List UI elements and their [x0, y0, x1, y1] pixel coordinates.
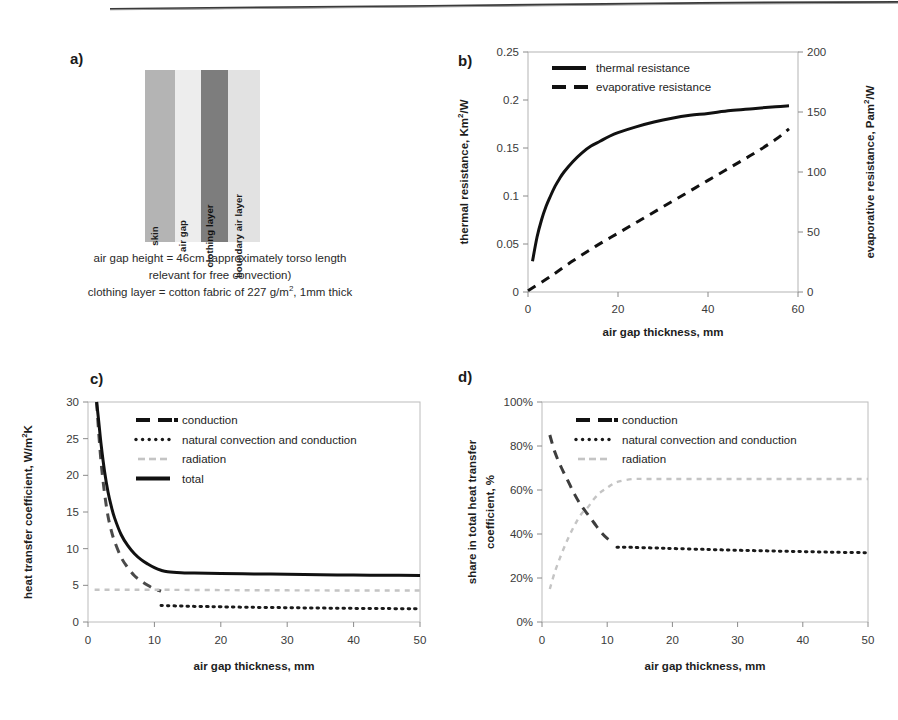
svg-text:0: 0	[513, 286, 519, 298]
svg-text:25: 25	[66, 433, 79, 445]
svg-text:air gap thickness, mm: air gap thickness, mm	[603, 326, 724, 338]
svg-text:total: total	[182, 473, 204, 485]
panel-b-chart: 020406000.050.10.150.20.25050100150200th…	[440, 20, 898, 360]
svg-text:0.05: 0.05	[497, 238, 519, 250]
caption-line-3-b: , 1mm thick	[293, 286, 352, 298]
layer-clothing: clothing layer	[201, 70, 227, 242]
svg-text:40: 40	[796, 634, 809, 646]
svg-text:evaporative resistance, Pam2/W: evaporative resistance, Pam2/W	[862, 85, 876, 258]
panel-c-chart: 01020304050051015202530heat transfer coe…	[10, 360, 450, 720]
panel-b-letter: b)	[458, 52, 472, 69]
layer-skin-label: skin	[149, 226, 160, 245]
svg-text:natural convection and conduct: natural convection and conduction	[182, 434, 357, 446]
svg-text:conduction: conduction	[622, 414, 678, 426]
svg-text:thermal resistance, Km2/W: thermal resistance, Km2/W	[456, 99, 470, 244]
panel-d: d) 010203040500%20%40%60%80%100%share in…	[450, 360, 898, 720]
svg-text:10: 10	[66, 543, 79, 555]
caption-line-2: relevant for free convection)	[18, 267, 422, 284]
svg-text:20%: 20%	[510, 572, 533, 584]
svg-text:10: 10	[601, 634, 614, 646]
svg-text:20: 20	[612, 303, 625, 315]
svg-text:40: 40	[347, 634, 360, 646]
svg-text:0: 0	[539, 634, 545, 646]
svg-text:50: 50	[414, 634, 427, 646]
svg-text:150: 150	[807, 106, 826, 118]
svg-text:air gap thickness, mm: air gap thickness, mm	[194, 660, 315, 672]
layer-air-gap: air gap	[175, 70, 201, 242]
svg-text:20: 20	[666, 634, 679, 646]
svg-text:30: 30	[281, 634, 294, 646]
svg-text:100%: 100%	[504, 396, 533, 408]
svg-text:100: 100	[807, 166, 826, 178]
svg-text:15: 15	[66, 506, 79, 518]
panel-a-letter: a)	[70, 50, 83, 67]
panel-c-letter: c)	[90, 370, 103, 387]
svg-text:heat transfer coefficient, W/m: heat transfer coefficient, W/m2K	[20, 424, 34, 599]
svg-text:air gap thickness, mm: air gap thickness, mm	[645, 660, 766, 672]
layer-boundary-air: boundary air layer	[228, 70, 260, 242]
svg-text:20: 20	[66, 469, 79, 481]
svg-text:200: 200	[807, 46, 826, 58]
svg-text:share in total heat transfer: share in total heat transfer	[466, 439, 478, 584]
svg-text:40%: 40%	[510, 528, 533, 540]
svg-text:0: 0	[525, 303, 531, 315]
svg-text:0.1: 0.1	[503, 190, 519, 202]
svg-text:radiation: radiation	[182, 453, 226, 465]
svg-text:80%: 80%	[510, 440, 533, 452]
svg-text:30: 30	[66, 396, 79, 408]
svg-text:20: 20	[214, 634, 227, 646]
layer-skin: skin	[145, 70, 175, 242]
svg-text:evaporative resistance: evaporative resistance	[596, 81, 711, 93]
layer-air-gap-label: air gap	[177, 220, 188, 252]
clothing-layer-diagram: skin air gap clothing layer boundary air…	[145, 70, 260, 242]
svg-text:60: 60	[792, 303, 805, 315]
svg-text:5: 5	[73, 579, 79, 591]
svg-text:0: 0	[807, 286, 813, 298]
caption-line-1: air gap height = 46cm (approximately tor…	[18, 250, 422, 267]
panel-d-chart: 010203040500%20%40%60%80%100%share in to…	[450, 360, 898, 720]
svg-text:coefficient, %: coefficient, %	[484, 475, 496, 549]
panel-a: a) skin air gap clothing layer boundary …	[0, 28, 440, 328]
svg-text:0.25: 0.25	[497, 46, 519, 58]
panel-a-caption: air gap height = 46cm (approximately tor…	[18, 250, 422, 301]
svg-text:60%: 60%	[510, 484, 533, 496]
svg-text:radiation: radiation	[622, 453, 666, 465]
svg-text:0: 0	[73, 616, 79, 628]
caption-line-3-a: clothing layer = cotton fabric of 227 g/…	[88, 286, 289, 298]
svg-text:thermal resistance: thermal resistance	[596, 62, 690, 74]
svg-text:50: 50	[807, 226, 820, 238]
svg-text:30: 30	[731, 634, 744, 646]
svg-text:0: 0	[85, 634, 91, 646]
panel-c: c) 01020304050051015202530heat transfer …	[10, 360, 450, 720]
svg-text:10: 10	[148, 634, 161, 646]
svg-text:0.15: 0.15	[497, 142, 519, 154]
svg-text:0%: 0%	[516, 616, 533, 628]
svg-text:50: 50	[862, 634, 875, 646]
svg-text:0.2: 0.2	[503, 94, 519, 106]
panel-b: b) 020406000.050.10.150.20.2505010015020…	[440, 20, 898, 360]
svg-text:40: 40	[702, 303, 715, 315]
scan-artifact-line	[0, 0, 898, 14]
svg-text:conduction: conduction	[182, 414, 238, 426]
svg-text:natural convection and conduct: natural convection and conduction	[622, 434, 797, 446]
caption-line-3: clothing layer = cotton fabric of 227 g/…	[18, 283, 422, 301]
panel-d-letter: d)	[458, 368, 472, 385]
